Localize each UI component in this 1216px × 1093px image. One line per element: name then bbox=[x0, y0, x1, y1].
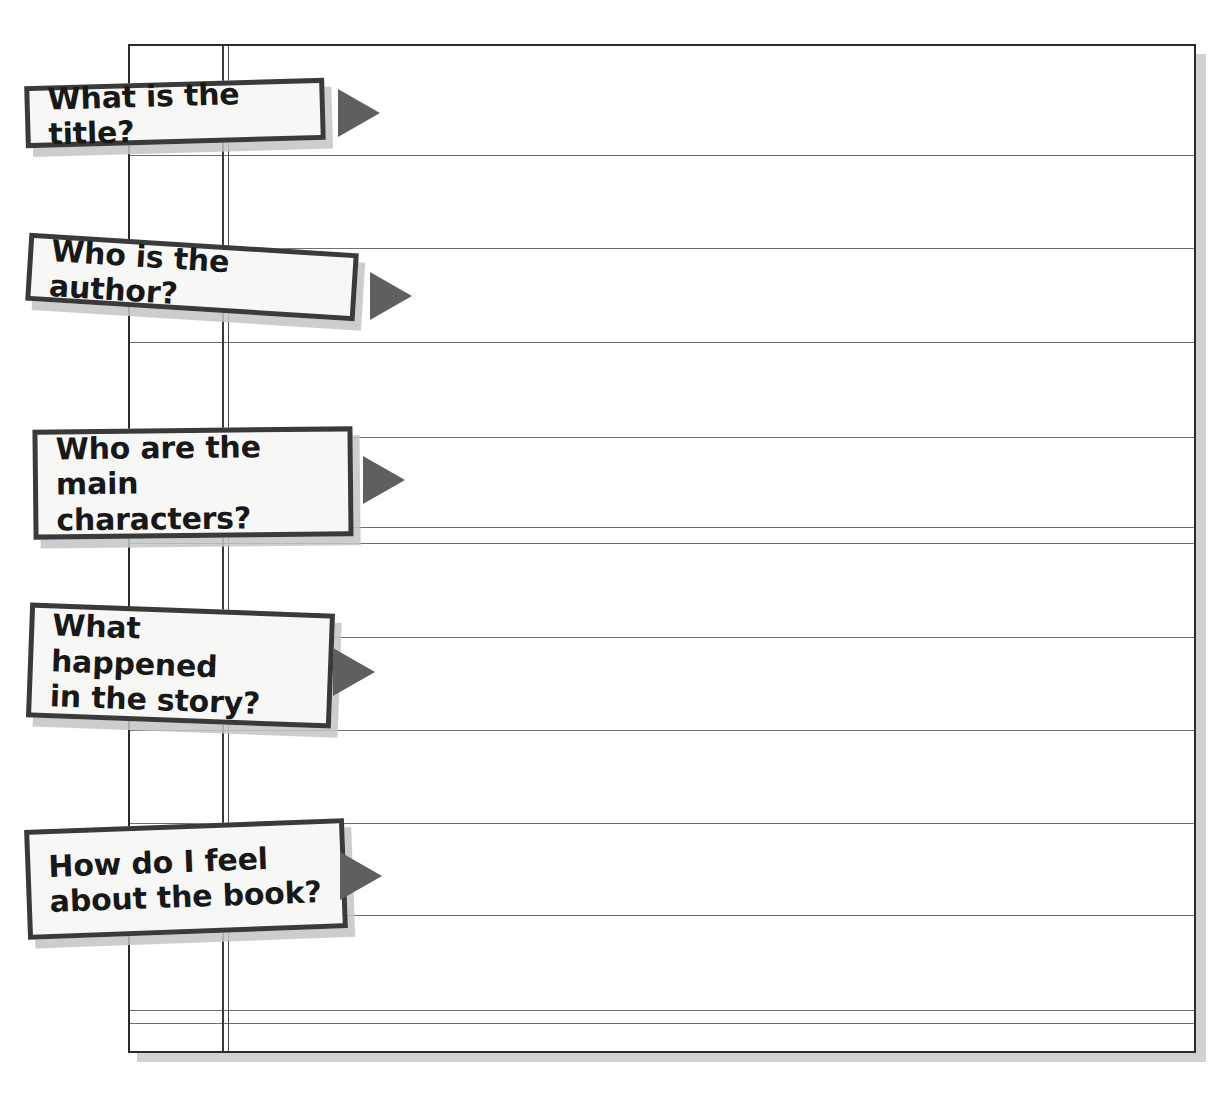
play-triangle-right-icon bbox=[370, 272, 412, 320]
prompt-label: What happened in the story? bbox=[49, 608, 316, 724]
play-triangle-right-icon bbox=[333, 648, 375, 696]
callout-box: What happened in the story? bbox=[26, 602, 335, 728]
prompt-callout-opinion[interactable]: How do I feel about the book? bbox=[24, 818, 348, 940]
ruled-line bbox=[130, 1010, 1194, 1011]
callout-box: How do I feel about the book? bbox=[24, 818, 348, 940]
callout-box: Who are the main characters? bbox=[32, 426, 353, 539]
prompt-label: Who are the main characters? bbox=[55, 428, 334, 537]
play-triangle-right-icon bbox=[338, 89, 380, 137]
ruled-line bbox=[130, 155, 1194, 156]
ruled-line bbox=[130, 342, 1194, 343]
worksheet-page: What is the title? Who is the author? Wh… bbox=[0, 0, 1216, 1093]
prompt-callout-title[interactable]: What is the title? bbox=[24, 78, 326, 148]
play-triangle-right-icon bbox=[363, 456, 405, 504]
prompt-label: What is the title? bbox=[47, 74, 307, 152]
callout-box: What is the title? bbox=[24, 78, 326, 148]
prompt-callout-characters[interactable]: Who are the main characters? bbox=[32, 426, 353, 539]
ruled-line bbox=[130, 1023, 1194, 1024]
prompt-label: How do I feel about the book? bbox=[48, 839, 322, 920]
play-triangle-right-icon bbox=[340, 852, 382, 900]
prompt-callout-plot[interactable]: What happened in the story? bbox=[26, 602, 335, 728]
